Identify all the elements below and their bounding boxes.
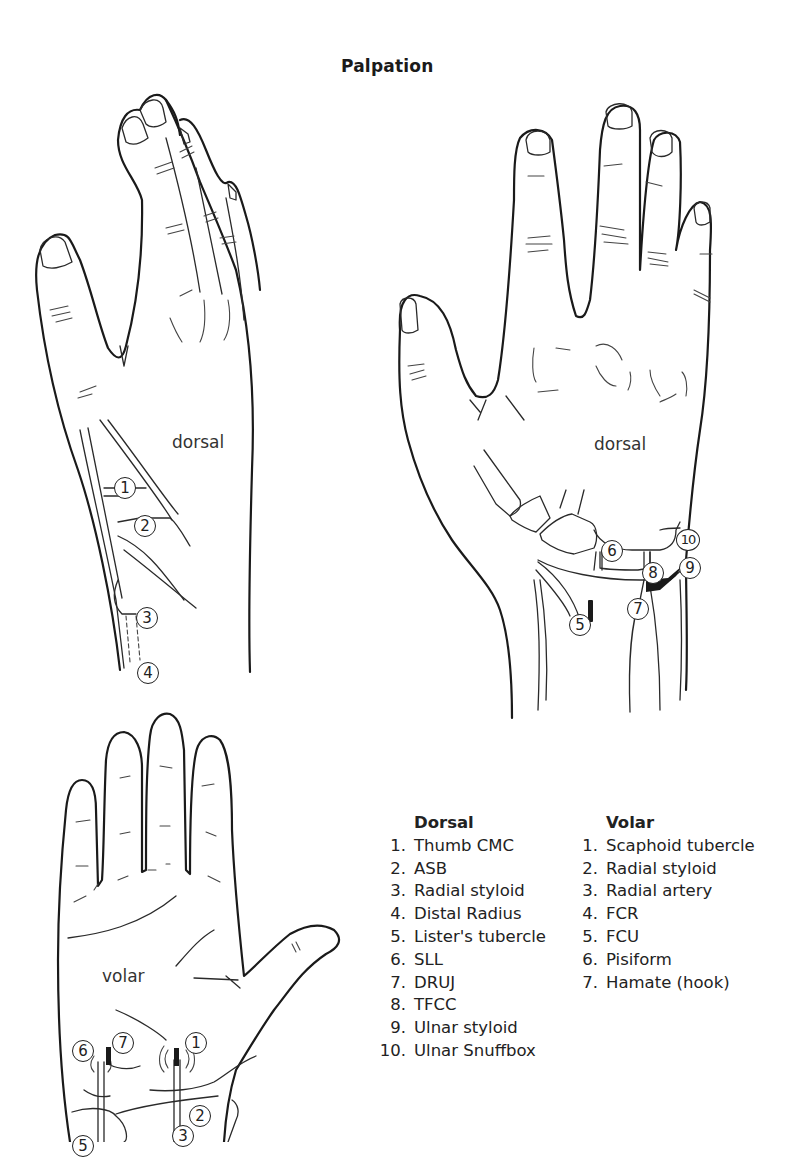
marker-dorsal-9: 9 (679, 557, 701, 579)
legend-dorsal-header: Dorsal (372, 812, 546, 835)
legend-item: 7.Hamate (hook) (564, 972, 755, 995)
legend-item: 1.Thumb CMC (372, 835, 546, 858)
legend-item: 9.Ulnar styloid (372, 1017, 546, 1040)
legend-volar: Volar 1.Scaphoid tubercle 2.Radial stylo… (564, 812, 755, 994)
marker-dorsal-7: 7 (627, 598, 649, 620)
marker-dorsal-3: 3 (136, 607, 158, 629)
legend-item: 7.DRUJ (372, 972, 546, 995)
marker-dorsal-2: 2 (134, 515, 156, 537)
marker-dorsal-4: 4 (137, 662, 159, 684)
legend-item: 1.Scaphoid tubercle (564, 835, 755, 858)
marker-dorsal-1: 1 (114, 477, 136, 499)
marker-volar-7: 7 (112, 1032, 134, 1054)
view-label-dorsal-right: dorsal (594, 434, 646, 454)
legend-volar-header: Volar (564, 812, 755, 835)
legend-item: 3.Radial artery (564, 880, 755, 903)
volar-hand-drawing (58, 714, 339, 1142)
legend-item: 4.Distal Radius (372, 903, 546, 926)
marker-volar-3: 3 (172, 1125, 194, 1147)
legend-item: 4.FCR (564, 903, 755, 926)
legend-item: 2.Radial styloid (564, 858, 755, 881)
marker-volar-1: 1 (185, 1032, 207, 1054)
view-label-volar: volar (102, 966, 145, 986)
marker-volar-5: 5 (72, 1135, 94, 1157)
dorsal-right-hand-drawing (399, 104, 712, 718)
legend-item: 8.TFCC (372, 994, 546, 1017)
marker-dorsal-6: 6 (601, 540, 623, 562)
legend-item: 3.Radial styloid (372, 880, 546, 903)
marker-dorsal-5: 5 (569, 614, 591, 636)
marker-volar-6: 6 (72, 1040, 94, 1062)
legend-item: 5.Lister's tubercle (372, 926, 546, 949)
legend-item: 6.Pisiform (564, 949, 755, 972)
legend-item: 2.ASB (372, 858, 546, 881)
marker-dorsal-10: 10 (676, 529, 700, 551)
legend-dorsal: Dorsal 1.Thumb CMC 2.ASB 3.Radial styloi… (372, 812, 546, 1063)
legend-item: 10.Ulnar Snuffbox (372, 1040, 546, 1063)
marker-volar-2: 2 (189, 1105, 211, 1127)
marker-dorsal-8: 8 (642, 562, 664, 584)
view-label-dorsal-left: dorsal (172, 432, 224, 452)
legend-item: 5.FCU (564, 926, 755, 949)
dorsal-left-hand-drawing (36, 95, 260, 672)
legend-item: 6.SLL (372, 949, 546, 972)
